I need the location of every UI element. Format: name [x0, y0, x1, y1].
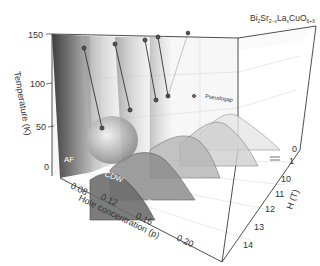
z-axis-label: H (T) [284, 188, 300, 211]
phase-diagram-figure: Bi2Sr2−xLaxCuO6+δ Pseudogap AF CDW SC 15… [0, 0, 320, 266]
svg-text:100: 100 [30, 79, 45, 89]
y-axis: 150 100 50 0 Temperature (K) [12, 30, 54, 172]
af-label: AF [64, 155, 74, 164]
svg-text:0: 0 [44, 162, 49, 172]
svg-text:150: 150 [28, 30, 43, 40]
svg-text:12: 12 [265, 204, 275, 214]
cdw-region-surface [86, 116, 138, 164]
svg-text:50: 50 [36, 122, 46, 132]
svg-text:0: 0 [292, 144, 297, 154]
svg-text:13: 13 [254, 222, 264, 232]
svg-text:11: 11 [275, 189, 284, 199]
figure-title: Bi2Sr2−xLaxCuO6+δ [250, 13, 315, 24]
svg-text:10: 10 [281, 174, 291, 184]
svg-text:14: 14 [243, 240, 253, 250]
svg-text:1: 1 [289, 156, 294, 166]
